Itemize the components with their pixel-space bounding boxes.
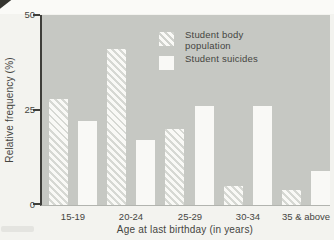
legend-label-line: population xyxy=(185,40,231,51)
x-tick-label-25-29: 25-29 xyxy=(178,211,202,222)
y-tick-mark-50 xyxy=(33,14,40,16)
solid-swatch-icon xyxy=(159,56,174,70)
bar-suicides-20-24 xyxy=(136,140,155,205)
legend-item-student-body-population: Student body population xyxy=(159,30,243,51)
y-axis-title: Relative frequency (%) xyxy=(4,57,15,163)
scan-artifact-top-left xyxy=(0,0,12,9)
x-axis-title: Age at last birthday (in years) xyxy=(117,224,253,235)
hatched-swatch-icon xyxy=(159,32,174,46)
x-tick-label-35-above: 35 & above xyxy=(282,211,330,222)
y-tick-mark-25 xyxy=(33,109,40,111)
bar-population-20-24 xyxy=(107,49,126,205)
legend-item-student-suicides: Student suicides xyxy=(159,54,258,70)
bar-population-15-19 xyxy=(49,99,68,205)
bar-population-30-34 xyxy=(224,186,243,205)
scan-artifact-bottom-left xyxy=(1,226,34,232)
legend-label: Student body population xyxy=(185,30,243,51)
bar-population-25-29 xyxy=(165,129,184,205)
bar-suicides-15-19 xyxy=(78,121,97,205)
x-tick-label-20-24: 20-24 xyxy=(119,211,143,222)
x-tick-label-30-34: 30-34 xyxy=(236,211,260,222)
bar-population-35-above xyxy=(282,190,301,205)
bar-suicides-30-34 xyxy=(253,106,272,205)
bar-suicides-25-29 xyxy=(195,106,214,205)
x-tick-label-15-19: 15-19 xyxy=(61,211,85,222)
y-tick-mark-0 xyxy=(33,203,40,205)
bar-chart-figure: Relative frequency (%) 50 25 0 Student b… xyxy=(0,0,334,240)
bar-suicides-35-above xyxy=(311,171,330,205)
legend-label-line: Student body xyxy=(185,29,243,40)
legend-label: Student suicides xyxy=(185,54,258,65)
